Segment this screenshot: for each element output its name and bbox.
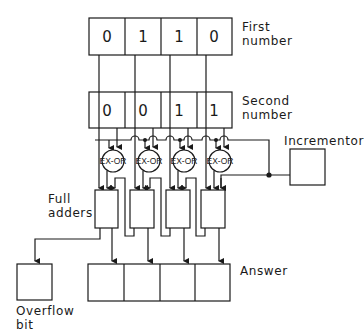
second-number-label: Second number [242,94,292,122]
second-bit-1: 0 [102,102,112,120]
incrementor-box [290,149,325,185]
first-bit-1: 0 [102,28,112,46]
exor-label-2: EX-OR [136,156,163,166]
answer-register [88,264,230,301]
answer-label: Answer [240,264,288,278]
second-bit-4: 1 [209,102,219,120]
second-bit-3: 1 [174,102,184,120]
overflow-bit-label: Overflow bit [16,304,74,332]
full-adder-1 [95,190,118,228]
full-adders-label: Full adders [48,192,93,220]
overflow-bit-box [17,264,52,300]
first-bit-4: 0 [209,28,219,46]
first-bit-2: 1 [138,28,148,46]
second-bit-2: 0 [138,102,148,120]
full-adder-2 [130,190,154,228]
first-number-label: First number [242,20,292,48]
exor-label-3: EX-OR [171,156,198,166]
incrementor-label: Incrementor [284,134,364,148]
full-adder-3 [166,190,190,228]
exor-label-1: EX-OR [100,156,127,166]
first-bit-3: 1 [174,28,184,46]
exor-label-4: EX-OR [207,156,234,166]
full-adder-4 [201,190,225,228]
